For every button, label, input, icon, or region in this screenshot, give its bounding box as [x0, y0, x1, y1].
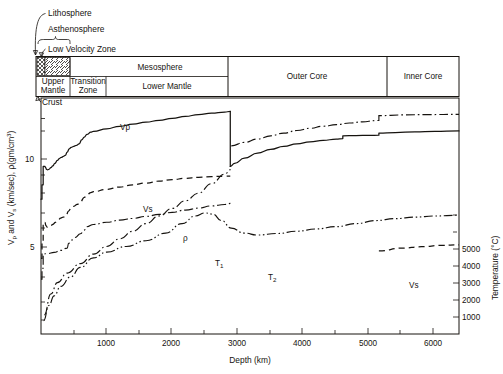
lithosphere-leader-line — [35, 14, 45, 56]
curve-t2 — [44, 213, 459, 321]
y-right-axis-title: Temperature (°C) — [490, 235, 500, 300]
layer-label-inner-core: Inner Core — [404, 72, 443, 81]
curve-label-vs: Vs — [143, 205, 153, 214]
x-tick-label-4000: 4000 — [293, 339, 312, 348]
curve-label-t2: T2 — [268, 273, 277, 283]
x-tick-label-6000: 6000 — [424, 339, 443, 348]
layer-label-upper-mantle-line1: Upper — [42, 77, 65, 86]
x-tick-label-1000: 1000 — [97, 339, 116, 348]
y-left-tick-label-10: 10 — [25, 155, 35, 164]
asthenosphere-hatch — [45, 58, 70, 76]
plot-area-border — [41, 98, 459, 334]
curve-vs — [41, 176, 230, 258]
x-tick-label-5000: 5000 — [359, 339, 378, 348]
layer-label-transition-zone-line1: Transition — [70, 77, 106, 86]
low-velocity-zone-crosshatch — [37, 58, 45, 76]
x-tick-label-3000: 3000 — [228, 339, 247, 348]
plot-frame — [41, 98, 459, 334]
y-right-tick-label-5000: 5000 — [462, 245, 481, 254]
curve-rho-core — [231, 114, 459, 146]
y-title-part-4: (km/sec), ρ(gm/cm — [6, 137, 16, 209]
asthenosphere-label: Asthenosphere — [48, 24, 105, 34]
asthenosphere-brace — [38, 37, 70, 45]
data-curves — [41, 111, 459, 320]
y-left-axis-title: Vp and Vs (km/sec), ρ(gm/cm3) — [5, 130, 17, 245]
layer-bar: Mesosphere Upper Mantle Transition Zone … — [36, 57, 459, 97]
curve-vp-outer-core — [230, 131, 459, 167]
layer-label-lower-mantle: Lower Mantle — [142, 82, 192, 91]
y-title-part-6: ) — [6, 130, 16, 133]
svg-text:Vp and Vs (km/sec), ρ(gm/cm3): Vp and Vs (km/sec), ρ(gm/cm3) — [5, 130, 17, 245]
layer-label-outer-core: Outer Core — [287, 72, 328, 81]
y-right-tick-label-3000: 3000 — [462, 279, 481, 288]
curve-t1 — [44, 170, 230, 315]
figure-root: Lithosphere Asthenosphere Low Velocity Z… — [0, 0, 503, 374]
curve-vp — [41, 111, 230, 199]
layer-label-upper-mantle-line2: Mantle — [41, 86, 66, 95]
layer-label-mesosphere: Mesosphere — [137, 63, 183, 72]
earth-structure-figure: Lithosphere Asthenosphere Low Velocity Z… — [0, 0, 503, 374]
x-tick-label-2000: 2000 — [162, 339, 181, 348]
top-annotations: Lithosphere Asthenosphere Low Velocity Z… — [33, 8, 116, 57]
x-axis-title: Depth (km) — [229, 355, 271, 365]
curve-rho — [41, 203, 231, 279]
curve-label-rho: ρ — [183, 234, 188, 243]
y-right-axis-title-text: Temperature (°C) — [490, 235, 500, 300]
curve-label-t1: T1 — [215, 259, 224, 269]
y-title-part-2: and V — [6, 211, 16, 236]
y-right-tick-label-4000: 4000 — [462, 262, 481, 271]
y-axis-right: 5000 4000 3000 2000 1000 Temperature (°C… — [453, 215, 500, 322]
curve-vs-inner-core — [379, 245, 459, 251]
curve-label-vs-inner-core: Vs — [409, 281, 419, 290]
y-left-tick-label-5: 5 — [30, 243, 35, 252]
layer-label-transition-zone-line2: Zone — [79, 86, 98, 95]
lithosphere-label: Lithosphere — [48, 8, 92, 18]
low-velocity-zone-label: Low Velocity Zone — [48, 44, 116, 54]
curve-label-vp: Vp — [120, 123, 130, 132]
curve-labels: Vp Vs Vs ρ T1 T2 — [120, 123, 419, 290]
y-right-tick-label-2000: 2000 — [462, 296, 481, 305]
y-right-tick-label-1000: 1000 — [462, 313, 481, 322]
